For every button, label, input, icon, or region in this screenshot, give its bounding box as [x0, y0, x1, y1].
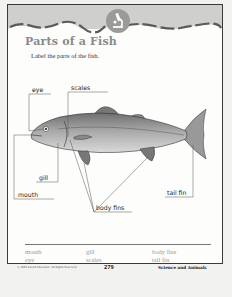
worksheet-page: Parts of a Fish Label the parts of the f… [7, 4, 223, 264]
label-mouth: mouth [18, 191, 38, 198]
fish-illustration [31, 107, 206, 165]
fish-diagram [8, 5, 223, 264]
word-bank-item: mouth [25, 248, 42, 255]
label-body-fins: body fins [96, 204, 124, 211]
word-bank-item: gill [86, 248, 95, 255]
section-name: Science and Animals [158, 265, 207, 270]
label-gill: gill [39, 174, 48, 181]
label-scales: scales [71, 84, 90, 91]
copyright-text: © 2003 Sound Education. All Rights Reser… [17, 266, 77, 269]
word-bank-divider [25, 244, 211, 245]
label-eye: eye [32, 86, 43, 93]
word-bank-item: scales [86, 256, 102, 263]
page-number: 279 [104, 264, 114, 270]
word-bank-item: tail fin [152, 256, 169, 263]
word-bank-item: eye [25, 256, 34, 263]
label-tail-fin: tail fin [167, 189, 186, 196]
word-bank-item: body fins [152, 248, 176, 255]
